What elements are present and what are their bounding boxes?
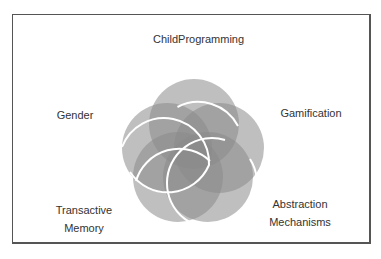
label-gender-text: Gender: [57, 109, 94, 121]
label-childprogramming-text: ChildProgramming: [153, 33, 244, 45]
label-transactive-line2: Memory: [54, 219, 114, 237]
label-abstraction-line2: Mechanisms: [265, 213, 335, 231]
label-gender: Gender: [50, 106, 100, 124]
label-gamification-text: Gamification: [280, 107, 341, 119]
label-abstraction-line1: Abstraction: [265, 195, 335, 213]
label-transactive-memory: Transactive Memory: [54, 201, 114, 237]
label-transactive-line1: Transactive: [54, 201, 114, 219]
label-childprogramming: ChildProgramming: [153, 30, 239, 48]
label-abstraction-mechanisms: Abstraction Mechanisms: [265, 195, 335, 231]
label-gamification: Gamification: [278, 104, 344, 122]
